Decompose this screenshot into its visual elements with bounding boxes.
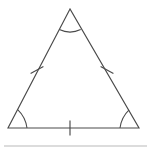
diagram-background <box>0 0 150 153</box>
equilateral-triangle-diagram <box>0 0 150 153</box>
geometry-figure-container <box>0 0 150 153</box>
